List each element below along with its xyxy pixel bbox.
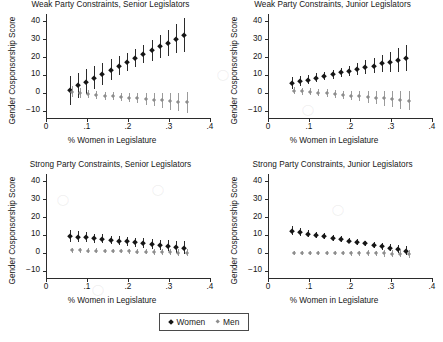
x-axis-tick-label: .4 xyxy=(207,282,214,291)
data-point-marker xyxy=(346,68,351,73)
data-point-marker xyxy=(357,251,361,255)
data-point-marker xyxy=(174,36,179,41)
y-axis-tick-label: 40 xyxy=(253,16,262,25)
data-point-marker xyxy=(371,242,376,247)
y-axis-tick-label: 0 xyxy=(35,247,40,256)
data-point-marker xyxy=(338,70,343,75)
plot-area: 403020100−100.1.2.3.4 xyxy=(46,174,210,278)
y-axis-tick-label: 0 xyxy=(35,87,40,96)
data-point-marker xyxy=(135,250,139,254)
y-axis-tick: 10 xyxy=(265,235,269,236)
data-point-marker xyxy=(176,100,180,104)
data-point-marker xyxy=(70,248,74,252)
x-axis-tick-label: 0 xyxy=(266,282,271,291)
data-point-marker xyxy=(111,94,115,98)
data-point-marker xyxy=(124,239,129,244)
data-point-marker xyxy=(292,89,296,93)
y-axis-line xyxy=(268,174,269,278)
data-point-marker xyxy=(305,77,310,82)
x-axis-tick xyxy=(309,278,310,282)
y-axis-tick: 20 xyxy=(43,57,47,58)
data-point-marker xyxy=(70,90,74,94)
data-point-marker xyxy=(149,48,154,53)
y-axis-tick: 10 xyxy=(43,235,47,236)
data-point-marker xyxy=(316,90,320,94)
y-axis-tick-label: 30 xyxy=(253,194,262,203)
data-point-marker xyxy=(116,63,121,68)
y-axis-tick: 10 xyxy=(265,75,269,76)
x-axis-tick-label: .1 xyxy=(306,122,313,131)
data-point-marker xyxy=(341,93,345,97)
y-axis-tick: 30 xyxy=(265,39,269,40)
x-axis-label: % Women in Legislature xyxy=(244,296,424,305)
data-point-marker xyxy=(157,44,162,49)
x-axis-tick xyxy=(268,278,269,282)
data-point-marker xyxy=(365,95,369,99)
data-point-marker xyxy=(157,242,162,247)
data-point-marker xyxy=(108,237,113,242)
data-point-marker xyxy=(184,100,188,104)
data-point-marker xyxy=(160,98,164,102)
y-axis-tick-label: 20 xyxy=(31,212,40,221)
legend-label-men: Men xyxy=(223,317,239,327)
data-point-marker xyxy=(371,63,376,68)
x-axis-tick xyxy=(350,278,351,282)
figure-panel-grid: Weak Party Constraints, Senior Legislato… xyxy=(0,0,443,342)
y-axis-tick: 30 xyxy=(43,199,47,200)
y-axis-tick-label: 20 xyxy=(253,212,262,221)
chart-panel-strong-senior: Strong Party Constraints, Senior Legisla… xyxy=(0,160,221,320)
data-point-marker xyxy=(316,251,320,255)
data-point-marker xyxy=(92,236,97,241)
legend: Women Men xyxy=(159,313,249,331)
y-axis-tick: 0 xyxy=(265,93,269,94)
data-point-marker xyxy=(390,97,394,101)
data-point-marker xyxy=(382,251,386,255)
x-axis-tick-label: 0 xyxy=(44,122,49,131)
y-axis-tick: 40 xyxy=(43,181,47,182)
data-point-marker xyxy=(86,248,90,252)
x-axis-tick xyxy=(87,118,88,122)
x-axis-tick xyxy=(391,118,392,122)
y-axis-tick-label: −10 xyxy=(26,105,40,114)
data-point-marker xyxy=(314,75,319,80)
data-point-marker xyxy=(111,249,115,253)
y-axis-tick: −10 xyxy=(265,111,269,112)
data-point-marker xyxy=(116,238,121,243)
data-point-marker xyxy=(67,234,72,239)
x-axis-tick-label: .3 xyxy=(388,282,395,291)
y-axis-tick: 20 xyxy=(265,217,269,218)
data-point-marker xyxy=(289,228,294,233)
x-axis-tick-label: .1 xyxy=(84,122,91,131)
legend-entry-women: Women xyxy=(169,317,205,327)
plot-area: 403020100−100.1.2.3.4 xyxy=(268,14,432,118)
data-point-marker xyxy=(160,250,164,254)
data-point-marker xyxy=(165,243,170,248)
data-point-marker xyxy=(379,61,384,66)
y-axis-label: Gender Cosponsorship Score xyxy=(230,171,239,291)
x-axis-tick-label: .2 xyxy=(347,282,354,291)
y-axis-tick-label: −10 xyxy=(248,265,262,274)
x-axis-tick xyxy=(169,118,170,122)
data-point-marker xyxy=(404,56,409,61)
x-axis-tick xyxy=(432,118,433,122)
y-axis-tick-label: 0 xyxy=(257,87,262,96)
y-axis-tick: 0 xyxy=(265,253,269,254)
data-point-marker xyxy=(149,241,154,246)
x-axis-tick xyxy=(268,118,269,122)
x-axis-tick-label: .4 xyxy=(207,122,214,131)
data-point-marker xyxy=(152,250,156,254)
data-point-marker xyxy=(78,248,82,252)
data-point-marker xyxy=(133,56,138,61)
x-axis-tick xyxy=(128,118,129,122)
y-axis-line xyxy=(268,14,269,118)
data-point-marker xyxy=(75,234,80,239)
y-axis-label: Gender Cosponsorship Score xyxy=(8,11,17,131)
data-point-marker xyxy=(324,91,328,95)
y-axis-tick-label: 0 xyxy=(257,247,262,256)
y-axis-tick: −10 xyxy=(43,111,47,112)
y-axis-tick-label: 40 xyxy=(31,176,40,185)
data-point-marker xyxy=(349,93,353,97)
data-point-marker xyxy=(176,250,180,254)
data-point-marker xyxy=(100,71,105,76)
data-point-marker xyxy=(308,90,312,94)
